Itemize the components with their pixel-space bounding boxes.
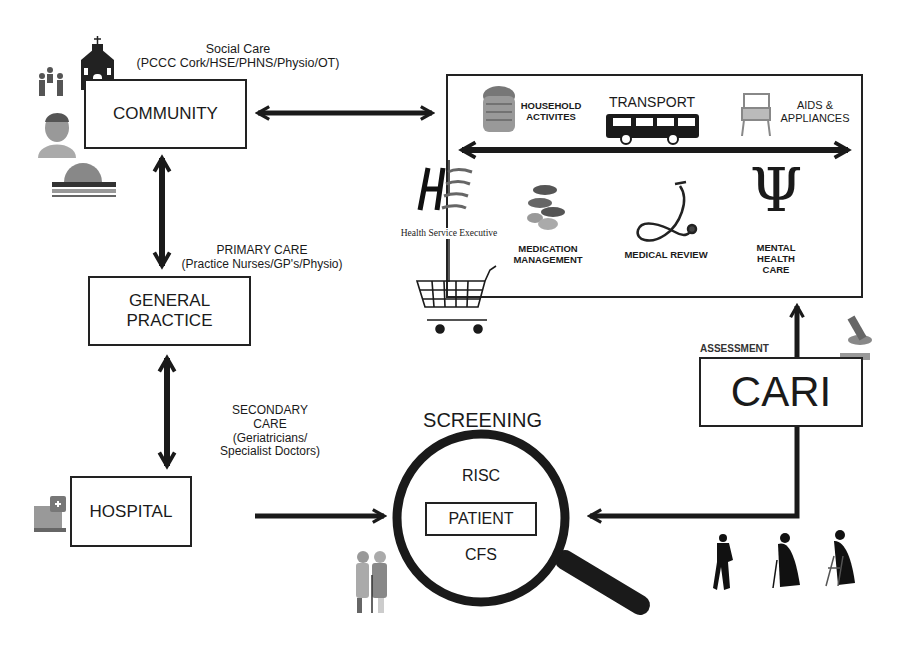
secondary-care-line3: (Geriatricians/ [208,432,332,446]
bus-icon [606,114,699,144]
hospital-building-icon [34,496,66,532]
community-caption-detail: (PCCC Cork/HSE/PHNS/Physio/OT) [100,56,376,70]
aids-appliances-label: AIDS & APPLIANCES [772,99,858,124]
hospital-label: HOSPITAL [90,502,173,522]
hse-name-label: Health Service Executive [396,228,502,239]
people-circle-icon [39,67,63,96]
microscope-icon [840,316,872,360]
community-label: COMMUNITY [113,104,218,124]
medication-management-label: MEDICATION MANAGEMENT [506,244,590,266]
risc-label: RISC [440,467,522,485]
mental-line3: CARE [748,265,804,276]
transport-label: TRANSPORT [600,94,704,110]
secondary-care-line4: Specialist Doctors) [208,445,332,459]
patient-label: PATIENT [448,510,513,528]
primary-care-detail: (Practice Nurses/GP's/Physio) [172,258,352,272]
arrow-cari-screening [590,426,797,516]
pills-icon [527,185,565,230]
assessment-caption: ASSESSMENT [700,343,788,355]
medication-line2: MANAGEMENT [506,255,590,266]
cari-box[interactable]: CARI [699,357,863,427]
commode-chair-icon [742,94,770,136]
secondary-care-line1: SECONDARY [208,404,332,418]
household-line2: ACTIVITES [511,112,591,123]
gp-label-line2: PRACTICE [127,311,213,331]
stethoscope-icon [638,182,696,240]
community-caption: Social Care (PCCC Cork/HSE/PHNS/Physio/O… [100,42,376,71]
shopping-cart-icon [417,266,496,333]
psi-icon: Ψ [748,160,804,220]
doctor-avatar-icon [38,113,76,158]
cfs-label: CFS [440,546,522,564]
general-practice-box[interactable]: GENERAL PRACTICE [88,276,251,346]
medical-review-label: MEDICAL REVIEW [614,250,718,261]
screening-title: SCREENING [400,409,565,432]
patient-box[interactable]: PATIENT [425,502,537,536]
cari-label: CARI [731,368,831,416]
household-activities-label: HOUSEHOLD ACTIVITES [511,101,591,123]
elderly-couple-icon [356,551,387,613]
aids-line2: APPLIANCES [772,112,858,125]
hospital-box[interactable]: HOSPITAL [70,476,192,547]
community-caption-title: Social Care [100,42,376,56]
mental-health-care-label: MENTAL HEALTH CARE [748,243,804,276]
secondary-care-line2: CARE [208,418,332,432]
primary-care-title: PRIMARY CARE [172,244,352,258]
gp-label-line1: GENERAL [129,291,210,311]
secondary-care-caption: SECONDARY CARE (Geriatricians/ Specialis… [208,404,332,459]
aids-line1: AIDS & [772,99,858,112]
primary-care-caption: PRIMARY CARE (Practice Nurses/GP's/Physi… [172,244,352,272]
community-box[interactable]: COMMUNITY [84,79,247,149]
elderly-silhouettes-icon [713,530,855,590]
sunrise-logo-icon [52,163,116,197]
